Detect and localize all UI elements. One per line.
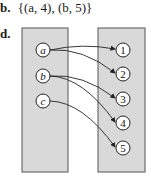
codomain-node-3: 3 (116, 92, 130, 106)
svg-text:c: c (41, 95, 46, 107)
svg-text:5: 5 (120, 142, 126, 154)
svg-text:1: 1 (120, 44, 126, 56)
mapping-diagram: abc12345 (0, 0, 151, 178)
codomain-node-5: 5 (116, 141, 130, 155)
svg-text:3: 3 (120, 93, 126, 105)
svg-text:2: 2 (120, 68, 126, 80)
codomain-node-4: 4 (116, 116, 130, 130)
svg-text:a: a (40, 44, 46, 56)
domain-node-a: a (36, 43, 50, 57)
svg-text:b: b (40, 70, 46, 82)
codomain-node-2: 2 (116, 67, 130, 81)
domain-node-c: c (36, 94, 50, 108)
domain-node-b: b (36, 69, 50, 83)
codomain-node-1: 1 (116, 43, 130, 57)
svg-text:4: 4 (120, 117, 126, 129)
